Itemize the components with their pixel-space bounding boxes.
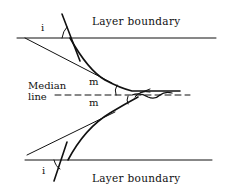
bottom-curved-ray: [68, 97, 138, 160]
bottom-straight-ray: [27, 112, 115, 155]
median-label-line1: Median: [28, 81, 66, 91]
upper-median-angle-label: m: [89, 77, 98, 87]
top-straight-ray: [25, 38, 112, 83]
top-curved-ray: [70, 38, 180, 91]
lower-median-angle-label: m: [89, 98, 98, 108]
upper-median-angle-arc: [115, 85, 117, 95]
bottom-boundary-label: Layer boundary: [92, 173, 180, 184]
lower-median-angle-arc: [127, 96, 128, 104]
bottom-angle-label: i: [42, 166, 45, 176]
diagram-canvas: Layer boundary i m Median line m i Layer…: [0, 0, 227, 196]
bottom-emergent-ray: [54, 142, 67, 181]
top-angle-label: i: [41, 23, 44, 33]
top-boundary-label: Layer boundary: [92, 16, 180, 27]
median-label-line2: line: [28, 92, 47, 102]
top-angle-arc: [62, 27, 67, 38]
